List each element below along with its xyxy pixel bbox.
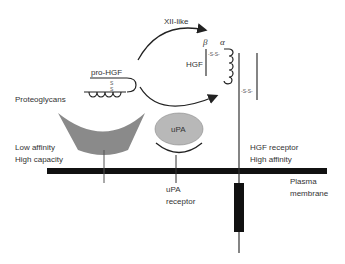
- label-proteoglycans: Proteoglycans: [15, 95, 66, 104]
- activation-arrow-bottom: [140, 87, 216, 106]
- label-hgf: HGF: [186, 60, 203, 69]
- plasma-membrane: [47, 168, 327, 174]
- label-high-affinity: High affinity: [250, 155, 292, 164]
- hgf-receptor-transmembrane: [234, 183, 244, 232]
- label-low-affinity: Low affinity: [15, 143, 55, 152]
- label-beta: β: [202, 37, 208, 47]
- label-high-capacity: High capacity: [15, 155, 63, 164]
- hgf-activation-diagram: S S XII-like pro-HGF Proteoglycans β α H…: [0, 0, 345, 264]
- label-upa: uPA: [171, 125, 186, 134]
- label-xii-like: XII-like: [164, 17, 189, 26]
- activation-arrow-top: [138, 28, 205, 60]
- ss-vertical-2: S: [110, 86, 114, 92]
- label-membrane: membrane: [290, 189, 329, 198]
- label-pro-hgf: pro-HGF: [91, 68, 122, 77]
- proteoglycan-shape: [58, 113, 145, 155]
- label-ss-bond-top: -S-S-: [208, 51, 220, 57]
- label-hgf-receptor: HGF receptor: [250, 143, 299, 152]
- hgf-alpha-chain: [224, 49, 233, 84]
- label-ss-bond-receptor: -S-S-: [241, 88, 253, 94]
- label-plasma: Plasma: [290, 177, 317, 186]
- label-upa-receptor-2: receptor: [166, 197, 196, 206]
- label-upa-receptor-1: uPA: [166, 185, 181, 194]
- label-alpha: α: [220, 37, 225, 47]
